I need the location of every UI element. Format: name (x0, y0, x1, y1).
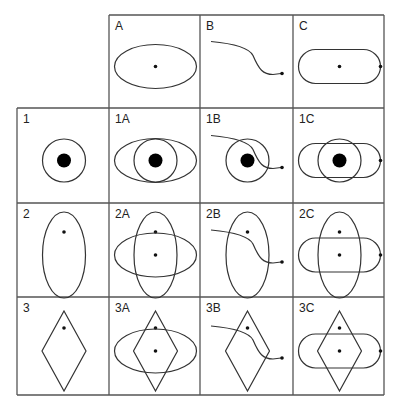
cell-label: 2C (299, 207, 315, 221)
filled-center-dot (57, 154, 71, 168)
diamond-shape (42, 311, 86, 391)
filled-center-dot (333, 154, 347, 168)
cell-label: 3C (299, 301, 315, 315)
cell-2b: 2B (206, 207, 284, 298)
stadium-edge-dot (379, 349, 383, 353)
cell-label: 2A (115, 207, 130, 221)
diamond-shape (226, 311, 270, 391)
curve-end-dot (280, 260, 284, 264)
cell-label: 2B (206, 207, 221, 221)
vertical-ellipse-dot (338, 230, 342, 234)
cell-3c: 3C (299, 301, 383, 391)
stadium-edge-dot (379, 159, 383, 163)
cell-3: 3 (23, 301, 86, 391)
vertical-ellipse-shape (43, 212, 86, 298)
stadium-edge-dot (379, 65, 383, 69)
horizontal-ellipse-dot (154, 349, 158, 353)
cell-label: 3 (23, 301, 30, 315)
curve-shape (211, 230, 281, 263)
curve-end-dot (280, 166, 284, 170)
filled-center-dot (149, 154, 163, 168)
curve-shape (211, 326, 281, 359)
diamond-dot (246, 326, 250, 330)
cell-3b: 3B (206, 301, 284, 391)
cell-label: 1C (299, 112, 315, 126)
cell-label: 1 (23, 112, 30, 126)
cell-1a: 1A (115, 112, 197, 183)
horizontal-ellipse-dot (154, 65, 158, 69)
curve-end-dot (280, 72, 284, 76)
cell-3a: 3A (115, 301, 197, 391)
cell-1: 1 (23, 112, 86, 182)
horizontal-ellipse-dot (154, 253, 158, 257)
cell-1b: 1B (206, 112, 284, 182)
stadium-center-dot (338, 349, 342, 353)
stadium-center-dot (338, 65, 342, 69)
cell-1c: 1C (299, 112, 383, 182)
cell-b: B (206, 19, 284, 75)
vertical-ellipse-dot (246, 230, 250, 234)
diamond-dot (338, 326, 342, 330)
cell-label: C (299, 19, 308, 33)
filled-center-dot (241, 154, 255, 168)
cell-label: 1B (206, 112, 221, 126)
cell-2: 2 (23, 207, 86, 298)
cell-a: A (115, 19, 197, 89)
diamond-dot (62, 326, 66, 330)
shape-combination-grid: ABC11A1B1C22A2B2C33A3B3C (0, 0, 401, 410)
grid-lines (17, 15, 384, 395)
cell-label: 3A (115, 301, 130, 315)
curve-end-dot (280, 356, 284, 360)
vertical-ellipse-shape (226, 212, 269, 298)
curve-shape (211, 42, 281, 75)
cell-label: 2 (23, 207, 30, 221)
stadium-edge-dot (379, 253, 383, 257)
cell-c: C (299, 19, 383, 84)
cell-label: 1A (115, 112, 130, 126)
stadium-center-dot (338, 253, 342, 257)
cell-label: 3B (206, 301, 221, 315)
cell-2c: 2C (299, 207, 383, 298)
cells: ABC11A1B1C22A2B2C33A3B3C (23, 19, 382, 391)
cell-2a: 2A (115, 207, 197, 298)
cell-label: B (206, 19, 214, 33)
cell-label: A (115, 19, 123, 33)
vertical-ellipse-dot (62, 230, 66, 234)
